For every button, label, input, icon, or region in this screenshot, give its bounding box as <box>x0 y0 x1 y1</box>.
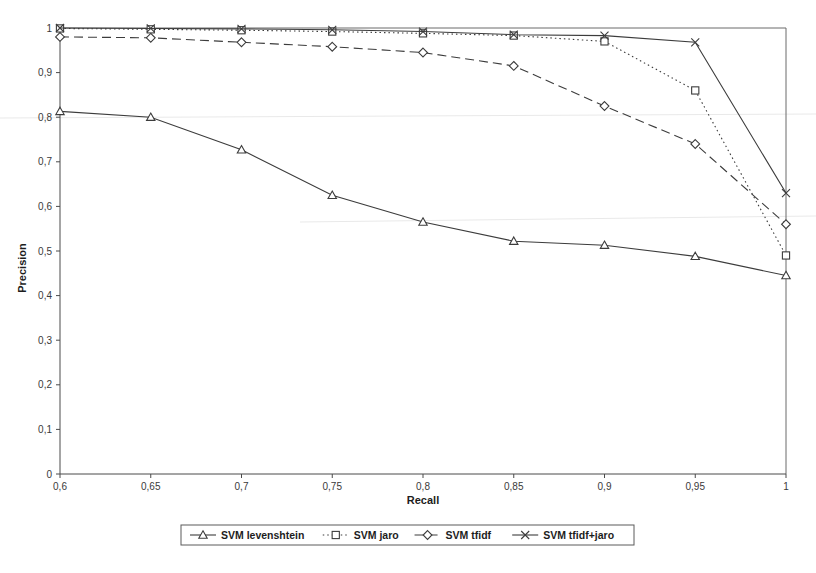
x-axis: 0,60,650,70,750,80,850,90,951 <box>53 474 789 492</box>
legend-label: SVM jaro <box>354 529 399 541</box>
data-point-marker <box>328 42 337 51</box>
legend-label: SVM tfidf <box>446 529 492 541</box>
plot-border <box>60 28 786 474</box>
series-layer <box>56 24 791 279</box>
data-point-marker <box>510 32 517 39</box>
y-tick-label: 0,4 <box>38 290 52 301</box>
y-axis: 00,10,20,30,40,50,60,70,80,91 <box>38 23 60 480</box>
y-tick-label: 0,7 <box>38 156 52 167</box>
precision-recall-chart: 00,10,20,30,40,50,60,70,80,91 0,60,650,7… <box>0 0 816 573</box>
data-point-marker <box>782 220 791 229</box>
plot-area <box>60 28 786 474</box>
y-tick-label: 1 <box>46 23 52 34</box>
data-point-marker <box>419 48 428 57</box>
x-tick-label: 0,95 <box>686 481 706 492</box>
y-tick-label: 0 <box>46 469 52 480</box>
scan-artifact-lines <box>0 114 816 222</box>
x-tick-label: 0,85 <box>504 481 524 492</box>
data-point-marker <box>147 26 154 33</box>
series-3 <box>56 33 791 229</box>
x-tick-label: 0,9 <box>598 481 612 492</box>
y-tick-label: 0,2 <box>38 379 52 390</box>
x-tick-label: 0,7 <box>235 481 249 492</box>
x-tick-label: 0,6 <box>53 481 67 492</box>
y-tick-label: 0,5 <box>38 246 52 257</box>
series-line <box>60 37 786 224</box>
data-point-marker <box>600 102 609 111</box>
legend-label: SVM tfidf+jaro <box>543 529 614 541</box>
y-tick-label: 0,9 <box>38 67 52 78</box>
y-tick-label: 0,8 <box>38 112 52 123</box>
data-point-marker <box>782 252 789 259</box>
y-axis-title: Precision <box>16 243 28 293</box>
data-point-marker <box>237 38 246 47</box>
data-point-marker <box>509 62 518 71</box>
x-axis-title: Recall <box>407 494 439 506</box>
chart-legend: SVM levenshteinSVM jaroSVM tfidfSVM tfid… <box>181 525 634 545</box>
data-point-marker <box>691 140 700 149</box>
data-point-marker <box>692 87 699 94</box>
data-point-marker <box>56 107 64 114</box>
x-tick-label: 0,8 <box>416 481 430 492</box>
y-tick-label: 0,6 <box>38 201 52 212</box>
data-point-marker <box>56 33 65 42</box>
chart-canvas: 00,10,20,30,40,50,60,70,80,91 0,60,650,7… <box>0 0 816 573</box>
x-tick-label: 0,65 <box>141 481 161 492</box>
data-point-marker <box>328 191 336 198</box>
y-tick-label: 0,3 <box>38 335 52 346</box>
x-tick-label: 0,75 <box>323 481 343 492</box>
data-point-marker <box>146 33 155 42</box>
legend-marker <box>332 531 339 538</box>
x-tick-label: 1 <box>783 481 789 492</box>
series-1 <box>56 107 790 279</box>
legend-label: SVM levenshtein <box>221 529 304 541</box>
y-tick-label: 0,1 <box>38 424 52 435</box>
data-point-marker <box>238 27 245 34</box>
